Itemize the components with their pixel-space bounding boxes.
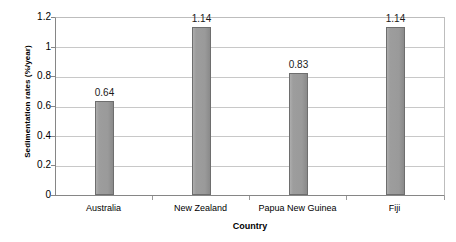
bar-slot-0: 0.64: [56, 18, 153, 195]
y-tick-label: 1.2: [21, 12, 51, 22]
x-tick-mark: [444, 196, 445, 200]
bar-value-label: 0.64: [75, 88, 135, 98]
y-tick-label: 0.2: [21, 160, 51, 170]
bar-value-label: 1.14: [366, 14, 426, 24]
bar-value-label: 0.83: [269, 60, 329, 70]
bar-papua-new-guinea[interactable]: [289, 73, 308, 195]
x-tick-mark: [346, 196, 347, 200]
bar-slot-2: 0.83: [250, 18, 347, 195]
bar-fiji[interactable]: [386, 27, 405, 195]
y-axis-ticks: 1.2 1 0.8 0.6 0.4 0.2 0: [20, 0, 51, 242]
x-category-label-fiji: Fiji: [346, 203, 443, 213]
plot-area: 0.64 1.14 0.83 1.14: [55, 17, 445, 196]
y-tick-label: 0.6: [21, 101, 51, 111]
x-tick-mark: [152, 196, 153, 200]
x-tick-mark: [249, 196, 250, 200]
bar-chart: Sedimentation rates (%/year) 1.2 1 0.8 0…: [0, 0, 456, 242]
bar-slot-1: 1.14: [153, 18, 250, 195]
bar-slot-3: 1.14: [347, 18, 444, 195]
bar-australia[interactable]: [95, 101, 114, 195]
y-tick-label: 1: [21, 42, 51, 52]
x-category-label-new-zealand: New Zealand: [152, 203, 249, 213]
x-category-label-papua-new-guinea: Papua New Guinea: [249, 203, 346, 213]
y-tick-label: 0.8: [21, 71, 51, 81]
y-tick-label: 0.4: [21, 131, 51, 141]
bar-new-zealand[interactable]: [192, 27, 211, 195]
y-tick-label: 0: [21, 190, 51, 200]
bar-value-label: 1.14: [172, 14, 232, 24]
bars-layer: 0.64 1.14 0.83 1.14: [56, 18, 444, 195]
x-axis-title: Country: [55, 221, 445, 231]
x-category-label-australia: Australia: [55, 203, 152, 213]
